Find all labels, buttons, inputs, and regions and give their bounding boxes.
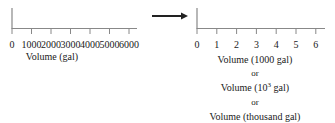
right-axis: [197, 8, 325, 34]
right-axis-title-1000-gal: Volume (1000 gal): [218, 54, 293, 65]
left-tick-0: 0: [10, 40, 15, 50]
right-tick-4: 4: [274, 40, 279, 50]
right-tick-3: 3: [254, 40, 259, 50]
right-tick-1: 1: [214, 40, 219, 50]
left-tick-4000: 4000: [80, 40, 100, 50]
right-axis-title-thousand-gal: Volume (thousand gal): [210, 111, 301, 122]
left-tick-2000: 2000: [41, 40, 61, 50]
or-label-1: or: [251, 68, 259, 78]
left-tick-6000: 6000: [119, 40, 139, 50]
right-axis-title-10-cubed-gal: Volume (103 gal): [221, 82, 289, 93]
left-tick-3000: 3000: [61, 40, 81, 50]
right-tick-0: 0: [195, 40, 200, 50]
or-label-2: or: [251, 97, 259, 107]
title-2-suffix: gal): [271, 82, 289, 93]
title-2-prefix: Volume (10: [221, 82, 268, 93]
left-axis-title: Volume (gal): [26, 51, 78, 62]
left-axis: [12, 8, 137, 34]
right-tick-6: 6: [313, 40, 318, 50]
left-tick-5000: 5000: [100, 40, 120, 50]
right-tick-5: 5: [294, 40, 299, 50]
arrow-right-icon: [152, 13, 188, 20]
right-tick-2: 2: [234, 40, 239, 50]
left-tick-1000: 1000: [22, 40, 42, 50]
